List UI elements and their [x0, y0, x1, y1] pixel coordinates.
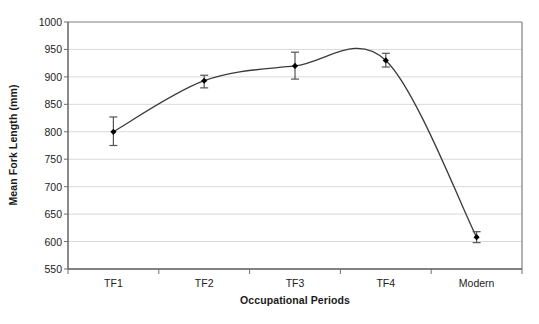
x-axis-tick-label: TF1 — [104, 277, 123, 289]
x-axis-title: Occupational Periods — [68, 294, 522, 306]
x-axis-tick-labels: TF1TF2TF3TF4Modern — [0, 0, 539, 324]
x-axis-tick-label: TF4 — [376, 277, 395, 289]
chart-container: Mean Fork Length (mm) 550600650700750800… — [0, 0, 539, 324]
x-axis-tick-label: TF2 — [195, 277, 214, 289]
x-axis-tick-label: TF3 — [286, 277, 305, 289]
x-axis-title-text: Occupational Periods — [240, 294, 350, 306]
x-axis-tick-label: Modern — [459, 277, 495, 289]
